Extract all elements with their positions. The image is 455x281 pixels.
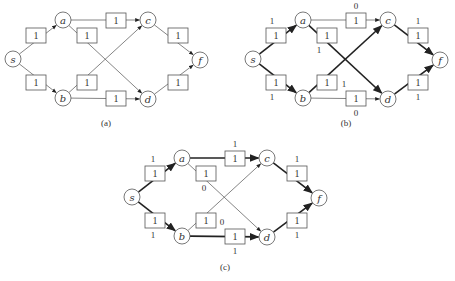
capacity-box-b-d: 1 bbox=[106, 91, 126, 106]
edge-d-f: 11 bbox=[394, 65, 433, 102]
edge-s-b: 11 bbox=[138, 202, 175, 240]
capacity-label: 1 bbox=[85, 30, 90, 41]
node-label: s bbox=[250, 54, 255, 65]
capacity-box-b-d: 1 bbox=[225, 229, 245, 244]
capacity-box-d-f: 1 bbox=[168, 75, 188, 90]
node-label: d bbox=[145, 94, 151, 105]
node-b: b bbox=[295, 90, 311, 106]
capacity-box-b-d: 1 bbox=[346, 91, 366, 106]
diagram-caption: (c) bbox=[220, 262, 230, 272]
capacity-box-a-c: 1 bbox=[346, 13, 366, 28]
flow-label-s-a: 1 bbox=[270, 16, 275, 26]
edge-s-a: 11 bbox=[138, 154, 175, 192]
capacity-label: 1 bbox=[233, 153, 238, 164]
capacity-label: 1 bbox=[176, 77, 181, 88]
capacity-box-s-b: 1 bbox=[266, 75, 286, 90]
flow-label-b-d: 1 bbox=[233, 246, 238, 256]
node-b: b bbox=[55, 90, 71, 106]
node-c: c bbox=[380, 12, 396, 28]
node-s: s bbox=[245, 51, 261, 67]
flow-network-figure: 11111111sabcdf(a) 1111101111101111sabcdf… bbox=[0, 0, 455, 281]
flow-label-s-b: 1 bbox=[151, 230, 156, 240]
edge-d-f: 1 bbox=[154, 65, 193, 94]
capacity-label: 1 bbox=[204, 168, 209, 179]
capacity-label: 1 bbox=[325, 30, 330, 41]
capacity-label: 1 bbox=[34, 77, 39, 88]
capacity-box-b-c: 1 bbox=[317, 75, 337, 90]
node-label: s bbox=[129, 192, 134, 203]
node-b: b bbox=[174, 228, 190, 244]
node-label: a bbox=[179, 153, 185, 164]
capacity-label: 1 bbox=[274, 30, 279, 41]
capacity-box-b-c: 1 bbox=[77, 75, 97, 90]
capacity-label: 1 bbox=[114, 15, 119, 26]
capacity-label: 1 bbox=[34, 30, 39, 41]
node-d: d bbox=[380, 91, 396, 107]
edge-a-c: 11 bbox=[190, 139, 259, 166]
node-c: c bbox=[140, 12, 156, 28]
capacity-label: 1 bbox=[85, 77, 90, 88]
edge-b-d: 11 bbox=[190, 229, 259, 256]
node-a: a bbox=[295, 12, 311, 28]
edge-s-a: 1 bbox=[19, 25, 56, 54]
capacity-label: 1 bbox=[233, 231, 238, 242]
capacity-box-s-a: 1 bbox=[145, 166, 165, 181]
flow-label-c-f: 1 bbox=[295, 154, 300, 164]
node-d: d bbox=[259, 229, 275, 245]
capacity-box-d-f: 1 bbox=[408, 75, 428, 90]
edge-b-d: 1 bbox=[71, 91, 140, 106]
edge-c-f: 11 bbox=[273, 154, 312, 193]
flow-label-a-c: 0 bbox=[354, 1, 359, 11]
capacity-box-s-a: 1 bbox=[266, 28, 286, 43]
node-label: b bbox=[179, 231, 185, 242]
capacity-label: 1 bbox=[176, 30, 181, 41]
capacity-box-b-c: 1 bbox=[196, 213, 216, 228]
capacity-label: 1 bbox=[274, 77, 279, 88]
flow-label-a-d: 0 bbox=[202, 183, 207, 193]
capacity-box-c-f: 1 bbox=[168, 28, 188, 43]
diagram-a: 11111111sabcdf(a) bbox=[5, 12, 208, 128]
node-label: c bbox=[385, 15, 391, 26]
edge-s-a: 11 bbox=[259, 16, 296, 54]
capacity-box-c-f: 1 bbox=[287, 166, 307, 181]
capacity-box-a-d: 1 bbox=[317, 28, 337, 43]
node-a: a bbox=[55, 12, 71, 28]
capacity-box-s-a: 1 bbox=[26, 28, 46, 43]
flow-label-b-c: 1 bbox=[342, 79, 347, 89]
capacity-label: 1 bbox=[153, 215, 158, 226]
flow-label-s-a: 1 bbox=[151, 154, 156, 164]
capacity-box-d-f: 1 bbox=[287, 213, 307, 228]
edge-d-f: 11 bbox=[273, 203, 312, 240]
edge-b-d: 10 bbox=[311, 91, 380, 118]
diagram-caption: (a) bbox=[101, 118, 111, 128]
diagram-caption: (b) bbox=[341, 118, 352, 128]
capacity-label: 1 bbox=[325, 77, 330, 88]
flow-label-b-d: 0 bbox=[354, 108, 359, 118]
edge-s-b: 1 bbox=[19, 64, 56, 93]
flow-label-a-c: 1 bbox=[233, 139, 238, 149]
capacity-label: 1 bbox=[295, 215, 300, 226]
node-label: s bbox=[10, 54, 15, 65]
edge-s-b: 11 bbox=[259, 64, 296, 102]
node-a: a bbox=[174, 150, 190, 166]
node-label: a bbox=[60, 15, 66, 26]
node-label: b bbox=[60, 93, 66, 104]
node-label: c bbox=[145, 15, 151, 26]
capacity-box-a-c: 1 bbox=[106, 13, 126, 28]
node-label: a bbox=[300, 15, 306, 26]
flow-label-d-f: 1 bbox=[295, 230, 300, 240]
diagram-b: 1111101111101111sabcdf(b) bbox=[245, 1, 448, 128]
capacity-box-c-f: 1 bbox=[408, 28, 428, 43]
node-s: s bbox=[5, 51, 21, 67]
capacity-box-a-d: 1 bbox=[77, 28, 97, 43]
node-d: d bbox=[140, 91, 156, 107]
node-f: f bbox=[192, 52, 208, 68]
capacity-label: 1 bbox=[354, 15, 359, 26]
edge-c-f: 1 bbox=[154, 25, 193, 55]
flow-label-c-f: 1 bbox=[416, 16, 421, 26]
node-label: d bbox=[385, 94, 391, 105]
node-label: b bbox=[300, 93, 306, 104]
capacity-label: 1 bbox=[416, 30, 421, 41]
capacity-label: 1 bbox=[416, 77, 421, 88]
node-f: f bbox=[311, 190, 327, 206]
